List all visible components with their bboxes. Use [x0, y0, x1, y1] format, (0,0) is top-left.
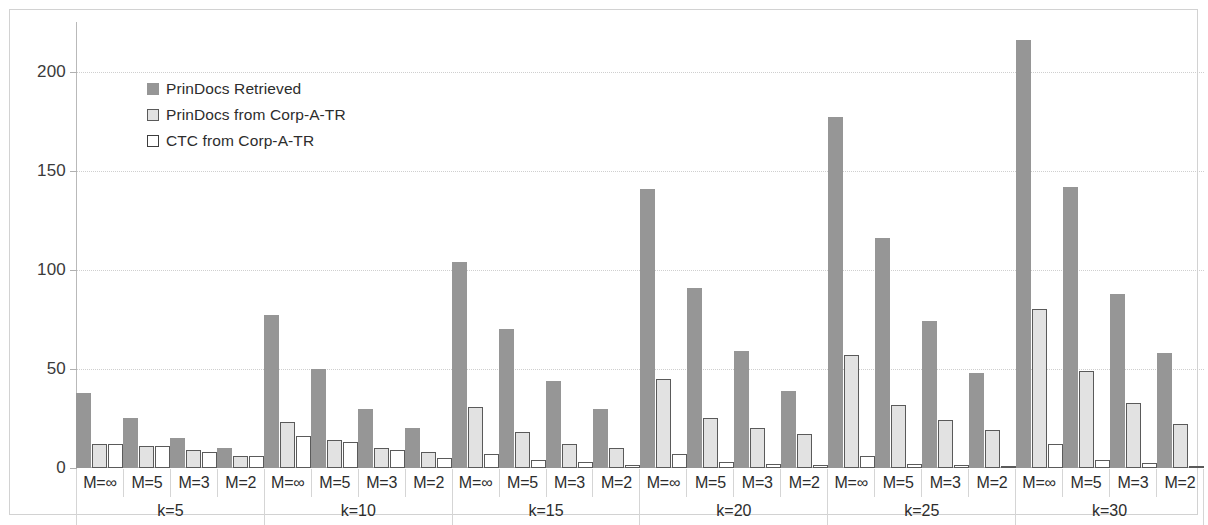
bar-series-2: [108, 444, 123, 468]
category-label: M=∞: [828, 469, 875, 497]
bar-series-1: [374, 448, 389, 468]
bar-series-0: [452, 262, 467, 468]
bar-series-0: [781, 391, 796, 468]
bar-series-0: [1110, 294, 1125, 468]
bar-series-1: [985, 430, 1000, 468]
bar-series-0: [217, 448, 232, 468]
bar-group: [640, 22, 687, 468]
bar-group: [828, 22, 875, 468]
category-label: M=5: [687, 469, 734, 497]
y-axis-tick-label: 200: [37, 62, 66, 82]
bar-series-2: [484, 454, 499, 468]
bar-group: [1110, 22, 1157, 468]
bar-series-0: [499, 329, 514, 468]
bar-series-1: [891, 405, 906, 468]
bar-series-1: [92, 444, 107, 468]
bar-series-2: [954, 465, 969, 468]
bar-series-1: [938, 420, 953, 468]
category-label: M=∞: [640, 469, 687, 497]
category-label: M=3: [359, 469, 406, 497]
bar-group: [452, 22, 499, 468]
bar-series-1: [703, 418, 718, 468]
group-label: k=15: [453, 497, 641, 525]
bar-series-0: [875, 238, 890, 468]
chart-legend: PrinDocs Retrieved PrinDocs from Corp-A-…: [147, 76, 346, 154]
bar-series-1: [1032, 309, 1047, 468]
bar-series-2: [578, 462, 593, 468]
chart-frame: 050100150200 M=∞M=5M=3M=2M=∞M=5M=3M=2M=∞…: [9, 9, 1198, 515]
bar-series-0: [1063, 187, 1078, 468]
bar-group: [593, 22, 640, 468]
category-label: M=2: [969, 469, 1016, 497]
bar-series-2: [672, 454, 687, 468]
bar-series-0: [687, 288, 702, 468]
category-label: M=∞: [453, 469, 500, 497]
category-label: M=2: [1157, 469, 1204, 497]
bar-series-0: [405, 428, 420, 468]
group-label: k=25: [828, 497, 1016, 525]
bar-series-2: [531, 460, 546, 468]
y-axis-tick-mark: [70, 72, 77, 73]
bar-series-0: [1157, 353, 1172, 468]
category-label: M=3: [1110, 469, 1157, 497]
bar-series-2: [390, 450, 405, 468]
legend-label-series-1: PrinDocs from Corp-A-TR: [166, 106, 346, 124]
bar-group: [546, 22, 593, 468]
bar-group: [687, 22, 734, 468]
bar-series-0: [546, 381, 561, 468]
category-label: M=2: [218, 469, 265, 497]
bar-series-1: [280, 422, 295, 468]
bar-series-2: [1048, 444, 1063, 468]
category-label: M=5: [875, 469, 922, 497]
legend-item-ctc-from-corp-a-tr: CTC from Corp-A-TR: [147, 128, 346, 154]
category-label: M=3: [922, 469, 969, 497]
bar-series-2: [1189, 466, 1204, 468]
category-label: M=2: [781, 469, 828, 497]
bar-group: [734, 22, 781, 468]
bar-series-1: [609, 448, 624, 468]
bar-series-0: [264, 315, 279, 468]
bar-series-1: [233, 456, 248, 468]
bar-series-0: [922, 321, 937, 468]
category-label: M=5: [1063, 469, 1110, 497]
bar-series-0: [358, 409, 373, 468]
y-axis-tick-label: 100: [37, 260, 66, 280]
bar-series-2: [437, 458, 452, 468]
bar-group: [1016, 22, 1063, 468]
bar-group: [76, 22, 123, 468]
bar-group: [781, 22, 828, 468]
y-axis-tick-mark: [70, 171, 77, 172]
bar-series-1: [1173, 424, 1188, 468]
group-label: k=5: [76, 497, 265, 525]
bar-series-2: [625, 465, 640, 468]
bar-series-0: [311, 369, 326, 468]
category-label: M=3: [734, 469, 781, 497]
y-axis-tick-mark: [70, 468, 77, 469]
category-labels-row: M=∞M=5M=3M=2M=∞M=5M=3M=2M=∞M=5M=3M=2M=∞M…: [76, 469, 1204, 497]
bar-group: [922, 22, 969, 468]
bar-series-1: [139, 446, 154, 468]
bar-series-1: [327, 440, 342, 468]
category-axis: M=∞M=5M=3M=2M=∞M=5M=3M=2M=∞M=5M=3M=2M=∞M…: [76, 469, 1204, 525]
bar-series-1: [656, 379, 671, 468]
bar-series-2: [249, 456, 264, 468]
group-labels-row: k=5k=10k=15k=20k=25k=30: [76, 497, 1204, 525]
bar-series-2: [907, 464, 922, 468]
category-label: M=∞: [76, 469, 124, 497]
legend-swatch-icon-series-2: [147, 135, 159, 147]
bar-group: [1157, 22, 1204, 468]
category-label: M=5: [124, 469, 171, 497]
bar-series-2: [813, 465, 828, 468]
category-label: M=5: [312, 469, 359, 497]
y-axis-tick-labels: 050100150200: [10, 22, 66, 468]
bar-series-0: [123, 418, 138, 468]
bar-series-1: [515, 432, 530, 468]
bar-series-2: [1142, 463, 1157, 468]
bar-series-1: [1126, 403, 1141, 468]
bar-group: [969, 22, 1016, 468]
bar-series-2: [296, 436, 311, 468]
bar-series-1: [750, 428, 765, 468]
y-axis-tick-label: 0: [56, 458, 66, 478]
bar-group: [405, 22, 452, 468]
category-label: M=5: [500, 469, 547, 497]
